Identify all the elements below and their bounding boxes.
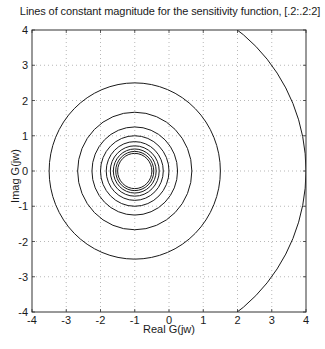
y-tick-labels: -4-3-2-101234 [18,24,28,318]
svg-text:-2: -2 [96,314,106,326]
svg-text:2: 2 [22,95,28,107]
svg-text:-3: -3 [18,271,28,283]
svg-text:-4: -4 [18,306,28,318]
svg-text:3: 3 [269,314,275,326]
svg-text:4: 4 [303,314,309,326]
svg-text:2: 2 [234,314,240,326]
svg-text:-2: -2 [18,236,28,248]
x-tick-labels: -4-3-2-101234 [27,314,309,326]
svg-text:0: 0 [22,165,28,177]
svg-text:3: 3 [22,59,28,71]
svg-text:1: 1 [200,314,206,326]
svg-text:1: 1 [22,130,28,142]
svg-text:-1: -1 [130,314,140,326]
svg-text:4: 4 [22,24,28,36]
svg-text:-4: -4 [27,314,37,326]
constant-magnitude-circles [0,0,306,347]
svg-text:-1: -1 [18,200,28,212]
svg-text:0: 0 [166,314,172,326]
svg-text:-3: -3 [61,314,71,326]
plot-area: -4-3-2-101234 -4-3-2-101234 [0,0,325,349]
